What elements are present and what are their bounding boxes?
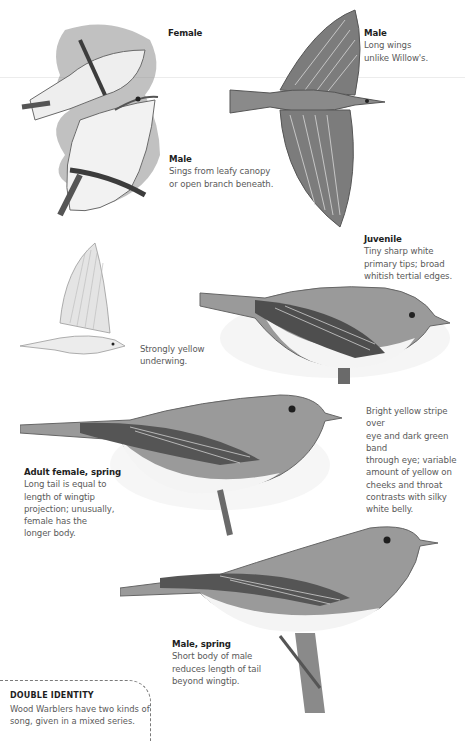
caption-male-flight: Male Long wings unlike Willow's. — [364, 27, 428, 64]
caption-adult-female: Adult female, spring Long tail is equal … — [24, 466, 121, 540]
caption-body: Bright yellow stripe over eye and dark g… — [366, 405, 465, 516]
caption-title: Female — [168, 27, 202, 39]
male-spring-perched-illustration — [120, 518, 440, 714]
caption-male-singing: Male Sings from leafy canopy or open bra… — [169, 153, 273, 190]
caption-body: Short body of male reduces length of tai… — [172, 650, 261, 687]
caption-body: Sings from leafy canopy or open branch b… — [169, 165, 273, 190]
caption-body: Strongly yellow underwing. — [140, 343, 204, 368]
caption-title: Male — [364, 27, 428, 39]
caption-title: Adult female, spring — [24, 466, 121, 478]
caption-underwing: Strongly yellow underwing. — [140, 343, 204, 368]
caption-title: Male, spring — [172, 638, 261, 650]
caption-body: Long tail is equal to length of wingtip … — [24, 478, 121, 539]
caption-juvenile: Juvenile Tiny sharp white primary tips; … — [364, 233, 452, 282]
juvenile-perched-illustration — [195, 278, 455, 388]
caption-female: Female — [168, 27, 202, 39]
box-body: Wood Warblers have two kinds of song, gi… — [10, 703, 150, 728]
flight-side-illustration — [15, 238, 130, 363]
caption-title: Juvenile — [364, 233, 452, 245]
pair-display-illustration — [10, 15, 170, 225]
box-title: DOUBLE IDENTITY — [10, 690, 150, 703]
caption-male-spring: Male, spring Short body of male reduces … — [172, 638, 261, 687]
caption-title: Male — [169, 153, 273, 165]
double-identity-text: DOUBLE IDENTITY Wood Warblers have two k… — [10, 690, 150, 728]
caption-body: Tiny sharp white primary tips; broad whi… — [364, 245, 452, 282]
caption-eye-stripe: Bright yellow stripe over eye and dark g… — [366, 405, 465, 516]
caption-body: Long wings unlike Willow's. — [364, 39, 428, 64]
